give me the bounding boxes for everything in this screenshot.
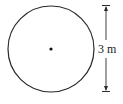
circle-diagram: 3 m [0,0,123,104]
arrow-up-icon [104,6,108,11]
dimension-line: 3 m [98,6,117,92]
center-point [49,47,52,50]
arrow-down-icon [104,86,108,91]
dimension-label: 3 m [98,42,117,56]
